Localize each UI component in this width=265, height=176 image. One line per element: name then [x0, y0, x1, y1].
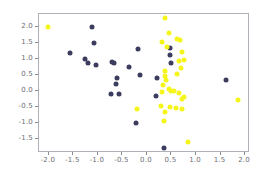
- data-point: [117, 92, 122, 97]
- x-tick-label: -1.5: [65, 156, 79, 164]
- y-tick-mark: [35, 58, 38, 59]
- data-point: [109, 60, 114, 65]
- data-point: [161, 119, 166, 124]
- data-point: [180, 50, 185, 55]
- data-point: [83, 56, 88, 61]
- data-point: [154, 94, 159, 99]
- data-point: [138, 73, 143, 78]
- y-tick-label: -1.0: [19, 118, 33, 126]
- data-point: [235, 97, 240, 102]
- y-tick-mark: [35, 138, 38, 139]
- data-point: [89, 24, 94, 29]
- data-point: [164, 78, 169, 83]
- x-tick-label: 0.0: [140, 156, 152, 164]
- data-point: [174, 72, 179, 77]
- data-point: [168, 61, 173, 66]
- y-tick-mark: [35, 74, 38, 75]
- data-point: [179, 66, 184, 71]
- y-tick-label: 2.0: [21, 22, 33, 30]
- data-point: [160, 39, 165, 44]
- y-tick-label: 0.5: [21, 70, 33, 78]
- y-tick-mark: [35, 90, 38, 91]
- data-point: [165, 44, 170, 49]
- x-tick-mark: [121, 152, 122, 155]
- data-point: [179, 106, 184, 111]
- x-tick-label: -1.0: [90, 156, 104, 164]
- data-point: [127, 64, 132, 69]
- x-tick-label: 1.0: [189, 156, 201, 164]
- data-point: [160, 90, 165, 95]
- data-point: [182, 57, 187, 62]
- data-point: [177, 90, 182, 95]
- data-point: [114, 81, 119, 86]
- data-point: [161, 82, 166, 87]
- x-tick-mark: [244, 152, 245, 155]
- data-point: [92, 40, 97, 45]
- data-point: [171, 89, 176, 94]
- data-point: [177, 59, 182, 64]
- y-tick-mark: [35, 42, 38, 43]
- data-point: [173, 106, 178, 111]
- y-tick-label: 0.0: [21, 86, 33, 94]
- y-tick-label: 1.0: [21, 54, 33, 62]
- data-point: [94, 63, 99, 68]
- x-tick-label: 2.0: [238, 156, 250, 164]
- data-point: [67, 51, 72, 56]
- x-tick-mark: [195, 152, 196, 155]
- data-point: [168, 46, 173, 51]
- data-point: [155, 75, 160, 80]
- data-point: [46, 24, 51, 29]
- data-point: [109, 91, 114, 96]
- x-tick-mark: [48, 152, 49, 155]
- data-point: [134, 107, 139, 112]
- data-point: [162, 73, 167, 78]
- y-tick-mark: [35, 122, 38, 123]
- x-tick-mark: [72, 152, 73, 155]
- data-point: [169, 89, 174, 94]
- data-point: [162, 16, 167, 21]
- data-point: [166, 87, 171, 92]
- data-point: [177, 38, 182, 43]
- data-point: [167, 53, 172, 58]
- data-point: [175, 36, 180, 41]
- x-tick-mark: [97, 152, 98, 155]
- x-tick-label: -0.5: [114, 156, 128, 164]
- x-tick-label: 0.5: [165, 156, 177, 164]
- y-tick-mark: [35, 26, 38, 27]
- scatter-plot-figure: -2.0-1.5-1.0-0.50.00.51.01.52.0 -1.5-1.0…: [0, 0, 265, 176]
- data-point: [162, 68, 167, 73]
- y-tick-mark: [35, 106, 38, 107]
- y-tick-label: 1.5: [21, 38, 33, 46]
- data-point: [134, 121, 139, 126]
- data-point: [162, 146, 167, 151]
- data-point: [186, 140, 191, 145]
- data-point: [180, 97, 185, 102]
- y-tick-label: -0.5: [19, 102, 33, 110]
- x-tick-label: -2.0: [41, 156, 55, 164]
- data-point: [111, 61, 116, 66]
- x-tick-mark: [170, 152, 171, 155]
- data-point: [166, 30, 171, 35]
- data-point: [86, 61, 91, 66]
- data-point: [158, 104, 163, 109]
- data-point: [136, 46, 141, 51]
- data-point: [163, 110, 168, 115]
- plot-area: [38, 13, 249, 152]
- data-point: [181, 94, 186, 99]
- data-point: [167, 105, 172, 110]
- data-point: [224, 78, 229, 83]
- x-tick-mark: [220, 152, 221, 155]
- data-point: [114, 75, 119, 80]
- x-tick-mark: [146, 152, 147, 155]
- y-tick-label: -1.5: [19, 134, 33, 142]
- x-tick-label: 1.5: [214, 156, 226, 164]
